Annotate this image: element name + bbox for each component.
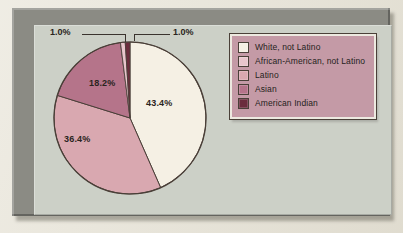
legend-label: American Indian bbox=[255, 99, 318, 108]
leader-line-right-drop bbox=[134, 34, 135, 41]
legend-swatch-icon bbox=[238, 70, 249, 81]
legend-label: Latino bbox=[255, 71, 279, 80]
legend-swatch-icon bbox=[238, 98, 249, 109]
chart-legend: White, not Latino African-American, not … bbox=[230, 34, 376, 119]
pie-callout-label-right: 1.0% bbox=[173, 27, 194, 37]
pie-callout-label-left: 1.0% bbox=[50, 27, 71, 37]
leader-line-right bbox=[134, 34, 170, 35]
legend-swatch-icon bbox=[238, 84, 249, 95]
legend-item-american-indian[interactable]: American Indian bbox=[238, 97, 368, 110]
leader-line-left bbox=[82, 34, 126, 35]
chart-plate: 43.4% 36.4% 18.2% 1.0% 1.0% White, not L… bbox=[34, 25, 392, 215]
page-background: 43.4% 36.4% 18.2% 1.0% 1.0% White, not L… bbox=[0, 0, 403, 233]
legend-label: African-American, not Latino bbox=[255, 57, 365, 66]
pie-svg bbox=[50, 38, 210, 198]
legend-item-african-american[interactable]: African-American, not Latino bbox=[238, 55, 368, 68]
pie-label-latino: 36.4% bbox=[64, 134, 91, 144]
legend-item-asian[interactable]: Asian bbox=[238, 83, 368, 96]
legend-item-white[interactable]: White, not Latino bbox=[238, 41, 368, 54]
legend-swatch-icon bbox=[238, 56, 249, 67]
legend-item-latino[interactable]: Latino bbox=[238, 69, 368, 82]
pie-label-asian: 18.2% bbox=[89, 78, 116, 88]
legend-label: White, not Latino bbox=[255, 43, 321, 52]
chart-frame: 43.4% 36.4% 18.2% 1.0% 1.0% White, not L… bbox=[12, 8, 390, 216]
pie-label-white: 43.4% bbox=[146, 98, 173, 108]
pie-chart: 43.4% 36.4% 18.2% bbox=[50, 38, 210, 198]
leader-line-left-drop bbox=[125, 34, 126, 42]
legend-label: Asian bbox=[255, 85, 277, 94]
legend-swatch-icon bbox=[238, 42, 249, 53]
